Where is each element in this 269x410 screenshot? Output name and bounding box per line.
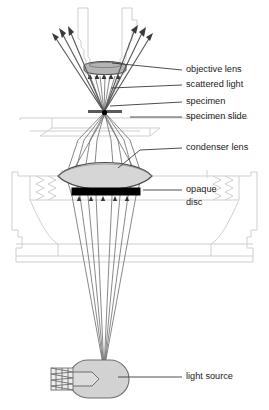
label-objective-lens: objective lens <box>186 64 242 74</box>
label-opaque-disc-line2: disc <box>186 197 203 207</box>
bulb-screw-base <box>51 368 73 390</box>
label-opaque-disc-line1: opaque <box>186 184 217 194</box>
label-specimen: specimen <box>186 96 225 106</box>
label-light-source: light source <box>186 371 233 381</box>
label-scattered-light: scattered light <box>186 79 244 89</box>
label-specimen-slide: specimen slide <box>186 111 247 121</box>
opaque-disc <box>72 188 140 195</box>
label-condenser-lens: condenser lens <box>186 142 249 152</box>
microscope-diagram: objective lens scattered light specimen … <box>0 0 269 410</box>
diagram-canvas: objective lens scattered light specimen … <box>0 0 269 410</box>
